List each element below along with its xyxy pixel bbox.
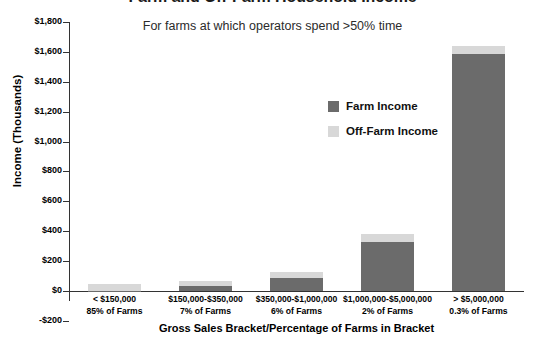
y-axis-tick-label: $800 <box>10 166 62 175</box>
y-axis-tick-label: $1,200 <box>10 107 62 116</box>
y-axis-tick-labels: $1,800$1,600$1,400$1,200$1,000$800$600$4… <box>0 0 62 345</box>
y-axis-tick-label: -$200 <box>10 316 62 325</box>
bar-group[interactable] <box>270 22 323 291</box>
x-axis-line <box>69 291 524 292</box>
y-axis-tick-label: $1,000 <box>10 137 62 146</box>
bar-segment-off-farm-income <box>88 284 141 291</box>
bar-group[interactable] <box>361 22 414 291</box>
legend-label-farm-income: Farm Income <box>346 100 418 112</box>
x-axis-category-label: > $5,000,000 <box>419 294 539 306</box>
bar-stack <box>361 234 414 291</box>
y-axis-tick-label: $1,400 <box>10 77 62 86</box>
y-axis-tick-label: $1,600 <box>10 47 62 56</box>
y-axis-tick-label: $1,800 <box>10 17 62 26</box>
chart-title: Farm and Off-Farm Household Income <box>0 0 545 6</box>
x-axis-category: > $5,000,0000.3% of Farms <box>419 294 539 317</box>
bar-segment-off-farm-income <box>452 46 505 54</box>
legend-swatch-farm-income <box>328 101 339 112</box>
bar-segment-farm-income <box>361 242 414 291</box>
bar-stack <box>270 272 323 291</box>
x-axis-category-labels: < $150,00085% of Farms$150,000-$350,0007… <box>69 294 524 320</box>
bar-stack <box>452 46 505 291</box>
bar-group[interactable] <box>179 22 232 291</box>
bar-segment-farm-income <box>179 286 232 291</box>
bar-group[interactable] <box>88 22 141 291</box>
legend-swatch-off-farm-income <box>328 126 339 137</box>
bar-stack <box>179 281 232 291</box>
y-axis-tick-label: $600 <box>10 196 62 205</box>
chart-container: Farm and Off-Farm Household Income For f… <box>0 0 545 345</box>
legend-item-farm-income: Farm Income <box>328 100 438 112</box>
chart-legend: Farm Income Off-Farm Income <box>328 100 438 150</box>
bar-group[interactable] <box>452 22 505 291</box>
bar-segment-off-farm-income <box>361 234 414 241</box>
y-axis-tick-label: $400 <box>10 226 62 235</box>
legend-label-off-farm-income: Off-Farm Income <box>346 125 438 137</box>
bar-stack <box>88 284 141 291</box>
x-axis-category-sublabel: 0.3% of Farms <box>419 306 539 318</box>
bar-segment-farm-income <box>270 278 323 291</box>
bars-layer <box>69 22 524 291</box>
bar-segment-off-farm-income <box>270 272 323 279</box>
bar-segment-farm-income <box>452 54 505 291</box>
x-axis-title: Gross Sales Bracket/Percentage of Farms … <box>69 322 524 334</box>
legend-item-off-farm-income: Off-Farm Income <box>328 125 438 137</box>
y-axis-tick-label: $200 <box>10 256 62 265</box>
